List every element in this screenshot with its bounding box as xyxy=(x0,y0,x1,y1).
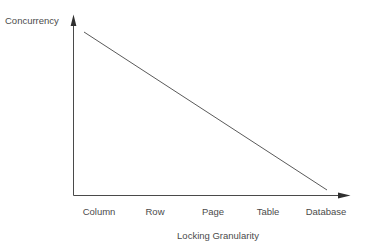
x-axis-arrow-icon xyxy=(338,192,351,198)
x-tick-label-page: Page xyxy=(202,207,224,217)
chart-figure: Concurrency Column Row Page Table Databa… xyxy=(0,0,372,251)
trend-line-series xyxy=(84,32,327,190)
y-axis-arrow-icon xyxy=(71,15,77,27)
x-tick-label-database: Database xyxy=(306,207,347,217)
x-tick-label-column: Column xyxy=(83,207,116,217)
x-tick-label-row: Row xyxy=(145,207,164,217)
x-axis-title: Locking Granularity xyxy=(0,231,372,241)
x-tick-label-table: Table xyxy=(257,207,280,217)
y-axis-label: Concurrency xyxy=(5,16,59,26)
